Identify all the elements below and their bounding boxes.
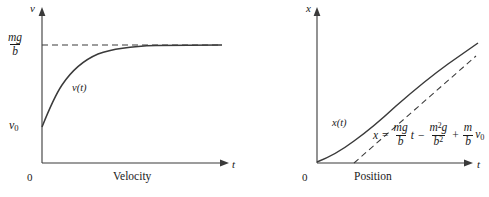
velocity-vertical-axis bbox=[39, 7, 46, 163]
position-axis-label: x bbox=[306, 3, 311, 14]
term2-denominator-exponent: 2 bbox=[439, 135, 443, 144]
initial-velocity-subscript: 0 bbox=[14, 123, 18, 133]
velocity-caption: Velocity bbox=[113, 171, 151, 183]
term2-numerator-base: m bbox=[429, 121, 437, 133]
term2-numerator-tail: g bbox=[442, 121, 448, 133]
term2-numerator: m2g bbox=[427, 122, 449, 135]
position-equation: x = mg b t − m2g b2 + m b v0 bbox=[372, 122, 485, 148]
position-origin-label: 0 bbox=[302, 172, 308, 183]
term3-denominator: b bbox=[463, 135, 473, 148]
equation-term2-fraction: m2g b2 bbox=[427, 122, 449, 148]
velocity-origin-label: 0 bbox=[27, 172, 33, 183]
velocity-plot-svg bbox=[0, 0, 245, 197]
term3-numerator: m bbox=[462, 122, 474, 134]
initial-velocity-label: v0 bbox=[9, 119, 19, 133]
position-chart-panel: x t 0 x(t) x = mg b t − m2g b2 + m b bbox=[244, 0, 489, 197]
term3-factor-subscript: 0 bbox=[480, 133, 484, 142]
fraction-denominator: b bbox=[10, 44, 20, 57]
term1-denominator: b bbox=[396, 135, 406, 148]
equation-term1-fraction: mg b bbox=[392, 122, 410, 147]
equation-operator-1: − bbox=[415, 129, 428, 141]
term2-denominator: b2 bbox=[432, 135, 446, 149]
position-plot-svg bbox=[244, 0, 489, 197]
equation-lhs: x bbox=[372, 129, 379, 141]
position-caption: Position bbox=[354, 171, 392, 183]
position-curve-label: x(t) bbox=[332, 118, 347, 129]
position-time-axis-label: t bbox=[477, 159, 480, 170]
velocity-axis-label: v bbox=[30, 3, 35, 14]
fraction-numerator: mg bbox=[6, 32, 24, 44]
term3-factor: v0 bbox=[474, 128, 485, 142]
velocity-chart-panel: mg b v0 v t 0 v(t) Velocity bbox=[0, 0, 245, 197]
velocity-time-axis-label: t bbox=[232, 159, 235, 170]
equation-equals: = bbox=[379, 129, 392, 141]
terminal-velocity-label: mg b bbox=[6, 32, 24, 57]
term1-numerator: mg bbox=[392, 122, 410, 134]
mg-over-b-fraction: mg b bbox=[6, 32, 24, 57]
physics-figure: mg b v0 v t 0 v(t) Velocity bbox=[0, 0, 489, 197]
velocity-curve bbox=[42, 45, 222, 127]
velocity-horizontal-axis bbox=[42, 160, 229, 167]
position-vertical-axis bbox=[314, 7, 321, 163]
equation-term3-fraction: m b bbox=[462, 122, 474, 147]
equation-operator-2: + bbox=[449, 129, 462, 141]
velocity-curve-label: v(t) bbox=[72, 83, 87, 94]
position-horizontal-axis bbox=[317, 160, 473, 167]
